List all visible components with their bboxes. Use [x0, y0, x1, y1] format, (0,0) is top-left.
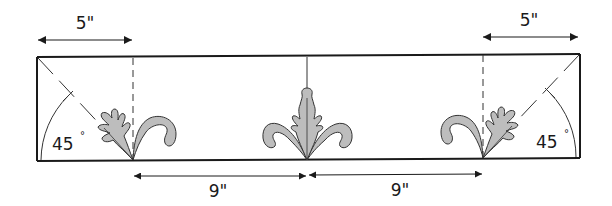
center-motif [263, 88, 352, 160]
right-angle-label: 45 [536, 132, 558, 152]
left-oak-leaf [98, 109, 133, 160]
left-angle-label: 45 [52, 134, 74, 154]
left-degree-symbol: ° [80, 130, 85, 141]
left-motif [98, 109, 176, 160]
right-motif [441, 107, 518, 158]
right-curl [441, 115, 483, 158]
left-9in-label: 9" [209, 181, 228, 201]
right-9in-label: 9" [391, 180, 410, 200]
right-5in-label: 5" [520, 10, 539, 30]
border-diagram: 5" 5" 45 ° 45 ° [0, 0, 612, 206]
right-oak-leaf [483, 107, 518, 158]
right-9in-dimension [309, 174, 482, 175]
right-degree-symbol: ° [564, 128, 569, 139]
right-arc-tick [545, 88, 555, 98]
left-5in-label: 5" [76, 13, 95, 33]
left-arc-tick [63, 91, 73, 101]
left-curl [133, 116, 176, 160]
